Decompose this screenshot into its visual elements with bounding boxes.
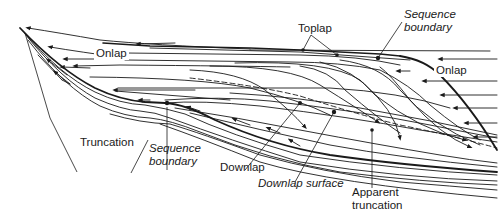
sequence-boundary-bottom-label: Sequence boundary (149, 142, 201, 168)
toplap-dot-1 (301, 48, 305, 52)
sequence-boundary-bottom-line1: Sequence (149, 142, 201, 155)
truncation-label: Truncation (80, 136, 134, 149)
apparent-truncation-dot (370, 128, 374, 132)
sequence-boundary-top-line1: Sequence (404, 8, 456, 21)
toplap-label: Toplap (298, 22, 332, 35)
apparent-truncation-label: Apparent truncation (352, 186, 403, 212)
apparent-truncation-line2: truncation (352, 199, 403, 212)
sequence-boundary-top-label: Sequence boundary (404, 8, 456, 34)
downlap-surface-dot (332, 110, 336, 114)
toplap-leader-1 (303, 35, 311, 50)
top-horizontal (250, 50, 490, 51)
sequence-boundary-bottom-line2: boundary (149, 155, 201, 168)
onlap-left-label: Onlap (94, 47, 129, 60)
toplap-dot-2 (335, 53, 339, 57)
onlap-right-label: Onlap (434, 64, 469, 77)
seq-boundary-top-leader (378, 22, 402, 58)
truncation-leader-left (25, 33, 77, 172)
downlap-label: Downlap (220, 161, 265, 174)
seq-boundary-bottom-dot (165, 101, 169, 105)
stratigraphy-diagram: Toplap Sequence boundary Onlap Onlap Tru… (0, 0, 500, 219)
seq-boundary-top-dot (376, 56, 380, 60)
apparent-truncation-line1: Apparent (352, 186, 403, 199)
downlap-surface-label: Downlap surface (258, 177, 344, 190)
sequence-boundary-top-line2: boundary (404, 21, 456, 34)
downlap-dot (298, 101, 302, 105)
